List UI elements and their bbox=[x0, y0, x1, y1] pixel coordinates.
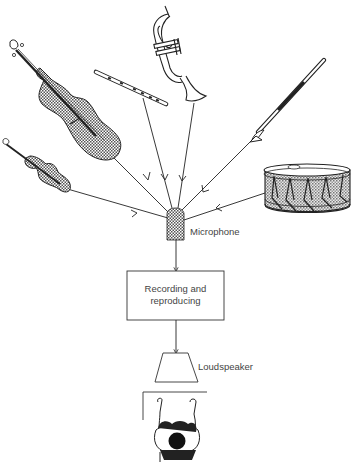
path-drum bbox=[184, 193, 265, 220]
microphone-label: Microphone bbox=[190, 226, 240, 237]
double-bass-icon bbox=[10, 40, 121, 160]
loudspeaker-icon bbox=[155, 353, 198, 382]
arrowhead bbox=[161, 174, 168, 180]
recording-box-label-line1: Recording and bbox=[127, 283, 224, 295]
arrowhead bbox=[131, 210, 137, 217]
arrowhead bbox=[143, 172, 150, 180]
recording-box-label-line2: reproducing bbox=[127, 295, 224, 307]
signal-flow-diagram bbox=[0, 0, 355, 472]
path-trumpet bbox=[178, 103, 194, 208]
listener-icon bbox=[143, 392, 207, 462]
recording-box-label: Recording and reproducing bbox=[127, 283, 224, 307]
trumpet-icon bbox=[154, 6, 206, 101]
violin-icon bbox=[3, 139, 70, 192]
microphone-icon bbox=[167, 208, 184, 240]
clarinet-icon bbox=[250, 60, 324, 142]
path-clarinet bbox=[182, 140, 252, 210]
loudspeaker-label: Loudspeaker bbox=[198, 361, 253, 372]
path-violin bbox=[64, 188, 168, 218]
flute-icon bbox=[96, 72, 166, 104]
drum-icon bbox=[264, 164, 350, 213]
